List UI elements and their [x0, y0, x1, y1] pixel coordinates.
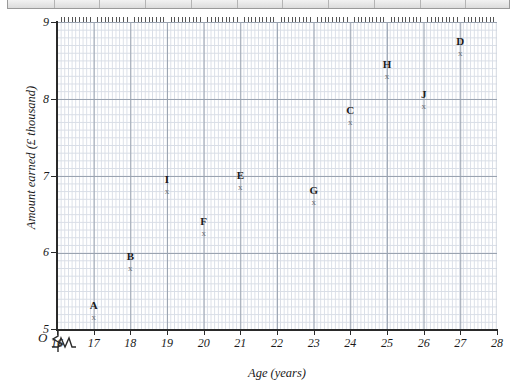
data-point-marker-icon: x: [163, 187, 171, 195]
x-axis-minor-tick: [431, 17, 432, 22]
x-axis-minor-tick: [237, 17, 238, 22]
x-axis-minor-tick: [416, 17, 417, 22]
x-axis-tick: [424, 329, 425, 335]
x-axis-minor-tick: [229, 17, 230, 22]
x-axis-minor-tick: [284, 17, 285, 22]
x-axis-minor-tick: [493, 17, 494, 22]
data-point-label: G: [309, 184, 318, 196]
data-point-label: I: [165, 173, 169, 185]
x-axis-minor-tick: [303, 17, 304, 22]
data-point-marker-icon: x: [383, 72, 391, 80]
x-axis-minor-tick: [178, 17, 179, 22]
x-axis-minor-tick: [295, 17, 296, 22]
x-axis-minor-tick: [339, 17, 340, 22]
x-axis-minor-tick: [398, 17, 399, 22]
data-point-label: C: [346, 104, 354, 116]
x-axis-minor-tick: [442, 17, 443, 22]
data-point-label: B: [127, 250, 134, 262]
x-axis-minor-tick: [160, 17, 161, 22]
x-axis-minor-tick: [306, 17, 307, 22]
data-point-label: A: [90, 299, 98, 311]
x-axis-minor-tick: [292, 17, 293, 22]
x-axis-minor-tick: [64, 17, 65, 22]
x-axis-minor-tick: [391, 17, 392, 22]
plot-gridlines: [57, 22, 497, 330]
x-axis-minor-tick: [207, 17, 208, 22]
data-point-marker-icon: x: [126, 264, 134, 272]
x-axis-minor-tick: [68, 17, 69, 22]
x-axis-tick: [167, 329, 168, 335]
x-axis-minor-tick: [457, 17, 458, 22]
toolbar-divider: [282, 0, 283, 8]
x-axis-tick-label: 19: [161, 336, 173, 351]
x-axis-minor-tick: [479, 17, 480, 22]
data-point-label: H: [383, 58, 392, 70]
x-axis-minor-tick: [475, 17, 476, 22]
data-point-label: F: [200, 215, 207, 227]
x-axis-minor-tick: [332, 17, 333, 22]
x-axis-minor-tick: [358, 17, 359, 22]
x-axis-tick-label: 22: [271, 336, 283, 351]
x-axis-minor-tick: [453, 17, 454, 22]
x-axis-tick-label: 27: [454, 336, 466, 351]
x-axis-minor-tick: [486, 17, 487, 22]
x-axis-minor-tick: [72, 17, 73, 22]
x-axis-minor-tick: [383, 17, 384, 22]
y-axis-tick-label: 9: [43, 15, 49, 30]
toolbar-divider: [328, 0, 329, 8]
x-axis-minor-tick: [211, 17, 212, 22]
x-axis-tick: [497, 329, 498, 335]
data-point-marker-icon: x: [200, 229, 208, 237]
x-axis-minor-tick: [321, 17, 322, 22]
x-axis-minor-tick: [149, 17, 150, 22]
x-axis-minor-tick: [185, 17, 186, 22]
x-axis-minor-tick: [365, 17, 366, 22]
x-axis-minor-tick: [112, 17, 113, 22]
data-point-marker-icon: x: [236, 183, 244, 191]
x-axis-minor-tick: [413, 17, 414, 22]
x-axis-minor-tick: [281, 17, 282, 22]
x-axis-minor-tick: [255, 17, 256, 22]
x-axis-tick: [94, 329, 95, 335]
x-axis-minor-tick: [119, 17, 120, 22]
x-axis-minor-tick: [189, 17, 190, 22]
scatter-plot: 5678916171819202122232425262728 xAxBxIxF…: [57, 22, 497, 330]
x-axis-minor-tick: [123, 17, 124, 22]
x-axis-tick: [350, 329, 351, 335]
data-point-marker-icon: x: [420, 102, 428, 110]
x-axis-minor-tick: [449, 17, 450, 22]
data-point-label: E: [237, 169, 244, 181]
y-axis-tick-label: 8: [43, 91, 49, 106]
x-axis-minor-tick: [138, 17, 139, 22]
toolbar-divider: [374, 0, 375, 8]
x-axis-minor-tick: [336, 17, 337, 22]
origin-label: O: [38, 330, 47, 346]
x-axis-minor-tick: [174, 17, 175, 22]
x-axis-minor-tick: [347, 17, 348, 22]
x-axis-minor-tick: [468, 17, 469, 22]
x-axis-minor-tick: [482, 17, 483, 22]
x-axis-minor-tick: [134, 17, 135, 22]
x-axis-minor-tick: [141, 17, 142, 22]
x-axis-tick-label: 24: [344, 336, 356, 351]
x-axis-minor-tick: [464, 17, 465, 22]
x-axis-tick: [387, 329, 388, 335]
y-axis-title: Amount earned (£ thousand): [24, 33, 39, 283]
x-axis-minor-tick: [244, 17, 245, 22]
x-axis-tick: [460, 329, 461, 335]
x-axis-minor-tick: [248, 17, 249, 22]
x-axis-minor-tick: [200, 17, 201, 22]
x-axis-minor-tick: [259, 17, 260, 22]
toolbar-divider: [237, 0, 238, 8]
data-point-marker-icon: x: [346, 118, 354, 126]
x-axis-minor-tick: [288, 17, 289, 22]
x-axis-minor-tick: [97, 17, 98, 22]
toolbar-divider: [99, 0, 100, 8]
x-axis-tick: [314, 329, 315, 335]
x-axis-tick-label: 26: [418, 336, 430, 351]
y-axis-tick-label: 7: [43, 168, 49, 183]
x-axis-minor-tick: [446, 17, 447, 22]
y-axis-tick: [51, 99, 57, 100]
x-axis-minor-tick: [405, 17, 406, 22]
toolbar-divider: [145, 0, 146, 8]
